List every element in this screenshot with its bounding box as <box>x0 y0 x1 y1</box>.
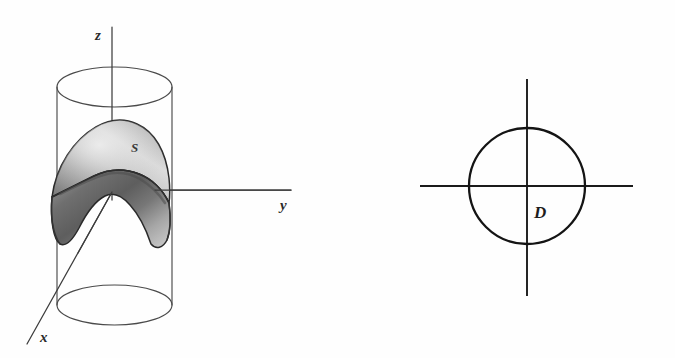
right-figure-group: D <box>420 79 633 296</box>
z-axis-label: z <box>94 27 101 43</box>
cylinder-bottom-ellipse <box>57 285 172 325</box>
region-label-d: D <box>533 203 546 222</box>
cylinder-top-ellipse <box>57 67 172 107</box>
surface-label-s: S <box>131 140 138 155</box>
left-figure-group: S z y x <box>27 27 291 345</box>
x-axis-label: x <box>39 329 48 345</box>
figure-canvas: S z y x D <box>0 0 675 358</box>
math-figure: S z y x D <box>0 0 675 358</box>
y-axis-label: y <box>278 197 287 213</box>
saddle-surface: S <box>51 120 170 247</box>
